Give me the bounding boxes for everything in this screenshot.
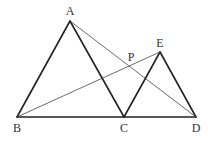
label-c: C [120, 121, 128, 135]
label-p: P [128, 50, 135, 64]
label-d: D [192, 121, 201, 135]
segment-be [17, 52, 160, 117]
segment-ac [70, 21, 124, 117]
segments [17, 21, 196, 117]
point-labels: A B C D E P [13, 4, 201, 135]
label-a: A [66, 4, 75, 18]
label-e: E [156, 36, 163, 50]
segment-ab [17, 21, 70, 117]
segment-ad [70, 21, 196, 117]
label-b: B [13, 121, 21, 135]
geometry-diagram: A B C D E P [0, 0, 208, 143]
segment-ed [160, 52, 196, 117]
